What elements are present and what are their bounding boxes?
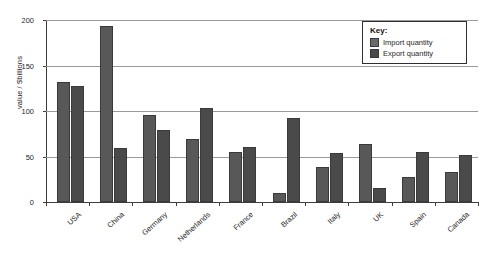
legend-entry-label: Export quantity	[383, 49, 433, 58]
y-tick-mark	[43, 157, 46, 158]
bar-group	[186, 20, 214, 202]
y-tick-label: 150	[8, 62, 34, 71]
bar-export	[416, 152, 429, 202]
bar-group	[143, 20, 171, 202]
bar-import	[229, 152, 242, 202]
x-axis-label: Germany	[140, 210, 169, 237]
bar-group	[100, 20, 128, 202]
bar-import	[402, 177, 415, 202]
bar-group	[273, 20, 301, 202]
bar-group	[316, 20, 344, 202]
x-axis-label: USA	[65, 210, 82, 227]
x-axis-label-text: China	[105, 210, 126, 230]
bar-export	[114, 148, 127, 202]
bar-import	[100, 26, 113, 202]
legend-entry: Export quantity	[370, 49, 460, 58]
bar-group	[229, 20, 257, 202]
y-tick-label: 200	[8, 16, 34, 25]
legend-entries: Import quantityExport quantity	[370, 38, 460, 58]
y-tick-label: 100	[8, 107, 34, 116]
x-axis-label-text: Netherlands	[176, 210, 212, 244]
x-tick-mark	[392, 202, 393, 206]
x-tick-mark	[176, 202, 177, 206]
x-axis-label-text: USA	[65, 210, 82, 227]
x-axis-label-text: France	[232, 210, 255, 232]
bar-export	[71, 86, 84, 202]
x-tick-mark	[305, 202, 306, 206]
export-swatch	[370, 49, 379, 58]
x-axis-label: Brazil	[279, 210, 299, 229]
x-axis-label: China	[105, 210, 126, 230]
x-tick-mark	[89, 202, 90, 206]
bar-import	[445, 172, 458, 202]
y-tick-mark	[43, 111, 46, 112]
bar-import	[143, 115, 156, 202]
x-tick-mark	[478, 202, 479, 206]
x-axis-label-text: Spain	[408, 210, 428, 230]
bar-export	[459, 155, 472, 202]
x-tick-mark	[219, 202, 220, 206]
x-axis-label-text: UK	[371, 210, 385, 224]
bar-export	[330, 153, 343, 202]
x-axis-label: Italy	[326, 210, 342, 226]
x-tick-mark	[46, 202, 47, 206]
legend-entry: Import quantity	[370, 38, 460, 47]
x-axis-label: UK	[371, 210, 385, 224]
x-axis-label: Netherlands	[176, 210, 212, 244]
legend-title: Key:	[370, 26, 460, 35]
x-axis-label: France	[232, 210, 255, 232]
x-tick-mark	[132, 202, 133, 206]
import-swatch	[370, 38, 379, 47]
bar-group	[57, 20, 85, 202]
x-axis-label: Spain	[408, 210, 428, 230]
x-axis-label-text: Italy	[326, 210, 342, 226]
bar-chart: value / $billions 050100150200 USAChinaG…	[0, 0, 487, 263]
bar-import	[57, 82, 70, 202]
x-axis-label-text: Germany	[140, 210, 169, 237]
bar-import	[273, 193, 286, 202]
x-tick-mark	[262, 202, 263, 206]
y-axis-title: value / $billions	[15, 28, 24, 138]
x-tick-mark	[435, 202, 436, 206]
y-tick-mark	[43, 20, 46, 21]
bar-export	[243, 147, 256, 202]
bar-import	[186, 139, 199, 202]
x-tick-mark	[348, 202, 349, 206]
y-tick-mark	[43, 66, 46, 67]
bar-export	[200, 108, 213, 202]
bar-import	[316, 167, 329, 202]
bar-export	[157, 130, 170, 202]
y-tick-label: 50	[8, 153, 34, 162]
legend-entry-label: Import quantity	[383, 38, 433, 47]
bar-export	[287, 118, 300, 202]
bar-import	[359, 144, 372, 202]
bar-export	[373, 188, 386, 202]
x-axis-label: Canada	[446, 210, 472, 234]
y-tick-label: 0	[8, 198, 34, 207]
legend: Key: Import quantityExport quantity	[362, 21, 467, 64]
x-axis-label-text: Brazil	[279, 210, 299, 229]
x-axis-label-text: Canada	[446, 210, 472, 234]
